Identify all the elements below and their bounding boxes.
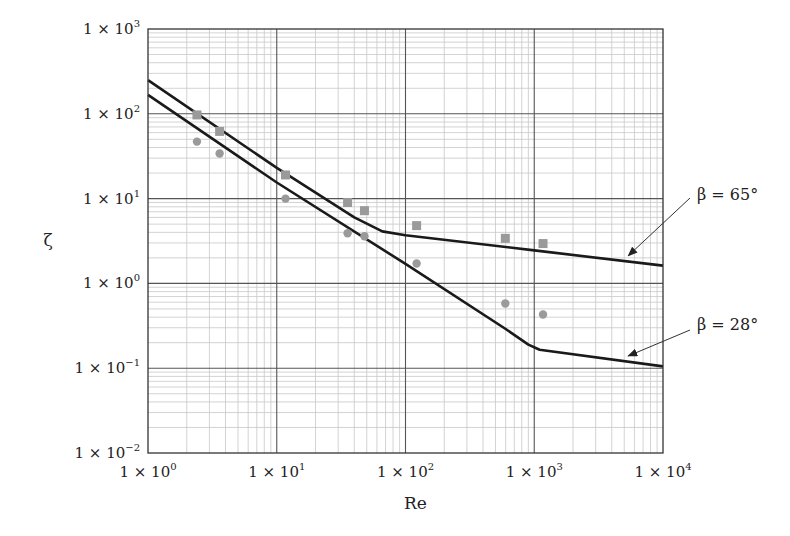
y-tick-label: 1 × 10−2 xyxy=(75,442,141,462)
data-point-square xyxy=(192,110,201,119)
annotation-label: β = 65° xyxy=(697,185,758,204)
x-tick-label: 1 × 103 xyxy=(506,461,563,481)
data-point-circle xyxy=(360,232,368,240)
y-tick-exponent: 0 xyxy=(134,272,140,283)
y-tick-labels: 1 × 10−21 × 10−11 × 1001 × 1011 × 1021 ×… xyxy=(75,18,141,462)
y-tick-label: 1 × 101 xyxy=(83,188,140,208)
y-axis-title: ζ xyxy=(43,230,52,250)
data-point-square xyxy=(215,127,224,136)
y-tick-label: 1 × 102 xyxy=(83,103,140,123)
x-tick-labels: 1 × 1001 × 1011 × 1021 × 1031 × 104 xyxy=(119,461,691,481)
y-tick-exponent: 3 xyxy=(134,18,140,29)
y-tick-base: 1 × 10 xyxy=(75,444,126,462)
x-tick-base: 1 × 10 xyxy=(634,463,685,481)
data-point-circle xyxy=(215,149,223,157)
y-tick-label: 1 × 10−1 xyxy=(75,357,141,377)
y-tick-exponent: −2 xyxy=(125,442,140,453)
y-tick-base: 1 × 10 xyxy=(83,190,134,208)
y-tick-base: 1 × 10 xyxy=(83,274,134,292)
x-tick-exponent: 1 xyxy=(299,461,305,472)
data-point-square xyxy=(281,170,290,179)
data-point-square xyxy=(539,239,548,248)
y-tick-exponent: 1 xyxy=(134,188,140,199)
data-point-circle xyxy=(412,259,420,267)
x-tick-exponent: 4 xyxy=(685,461,691,472)
data-point-circle xyxy=(281,194,289,202)
data-point-square xyxy=(501,234,510,243)
data-point-circle xyxy=(343,229,351,237)
x-tick-exponent: 2 xyxy=(428,461,434,472)
annotations: β = 65°β = 28° xyxy=(628,185,758,356)
data-point-square xyxy=(343,198,352,207)
data-point-circle xyxy=(539,310,547,318)
data-point-square xyxy=(360,206,369,215)
x-tick-base: 1 × 10 xyxy=(377,463,428,481)
y-tick-base: 1 × 10 xyxy=(83,20,134,38)
y-tick-label: 1 × 100 xyxy=(83,272,140,292)
annotation-label: β = 28° xyxy=(697,315,758,334)
x-tick-label: 1 × 100 xyxy=(119,461,176,481)
y-tick-base: 1 × 10 xyxy=(75,359,126,377)
x-tick-label: 1 × 104 xyxy=(634,461,691,481)
y-tick-exponent: −1 xyxy=(125,357,140,368)
x-tick-label: 1 × 101 xyxy=(248,461,305,481)
data-point-circle xyxy=(193,137,201,145)
y-tick-exponent: 2 xyxy=(134,103,140,114)
x-tick-exponent: 3 xyxy=(556,461,562,472)
x-axis-title: Re xyxy=(404,493,427,513)
x-tick-label: 1 × 102 xyxy=(377,461,434,481)
data-point-square xyxy=(412,221,421,230)
x-tick-exponent: 0 xyxy=(170,461,176,472)
y-tick-label: 1 × 103 xyxy=(83,18,140,38)
x-tick-base: 1 × 10 xyxy=(506,463,557,481)
data-point-circle xyxy=(501,299,509,307)
x-tick-base: 1 × 10 xyxy=(248,463,299,481)
x-tick-base: 1 × 10 xyxy=(119,463,170,481)
y-tick-base: 1 × 10 xyxy=(83,105,134,123)
chart: 1 × 1001 × 1011 × 1021 × 1031 × 104 1 × … xyxy=(0,0,790,536)
